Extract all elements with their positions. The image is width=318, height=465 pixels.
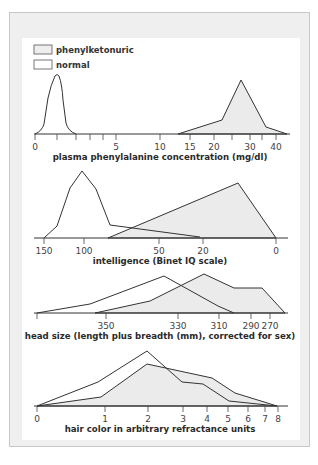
x-tick-label: 20 bbox=[197, 246, 209, 256]
x-tick-label: 50 bbox=[153, 246, 165, 256]
chart-phenylalanine: 051015203040 plasma phenylalanine concen… bbox=[32, 75, 290, 163]
x-axis-ticks: 350330310290270 bbox=[37, 313, 279, 331]
x-tick-label: 15 bbox=[184, 142, 195, 152]
x-tick-label: 20 bbox=[208, 142, 220, 152]
x-tick-label: 30 bbox=[244, 142, 256, 152]
x-tick-label: 4 bbox=[204, 414, 210, 424]
pku-distribution bbox=[178, 80, 287, 134]
chart-head-size: 350330310290270 head size (length plus b… bbox=[25, 274, 296, 341]
x-tick-label: 290 bbox=[242, 321, 259, 331]
legend: phenylketonuric normal bbox=[34, 45, 134, 70]
x-tick-label: 0 bbox=[273, 246, 279, 256]
x-tick-label: 10 bbox=[154, 142, 166, 152]
x-tick-label: 1 bbox=[102, 414, 108, 424]
x-tick-label: 330 bbox=[169, 321, 186, 331]
x-axis-title: head size (length plus breadth (mm), cor… bbox=[25, 331, 296, 341]
x-tick-label: 6 bbox=[245, 414, 251, 424]
x-tick-label: 7 bbox=[262, 414, 268, 424]
figure-svg: phenylketonuric normal 051015203040 plas… bbox=[0, 0, 318, 465]
x-tick-label: 2 bbox=[145, 414, 151, 424]
legend-swatch-pku bbox=[34, 45, 52, 54]
x-axis-title: plasma phenylalanine concentration (mg/d… bbox=[53, 152, 268, 162]
chart-hair-color: 012345678 hair color in arbitrary refrac… bbox=[34, 351, 288, 434]
x-tick-label: 310 bbox=[210, 321, 227, 331]
x-tick-label: 0 bbox=[34, 414, 40, 424]
x-axis-ticks: 15010050200 bbox=[35, 238, 279, 256]
pku-distribution bbox=[108, 183, 276, 238]
normal-distribution bbox=[35, 75, 76, 135]
x-tick-label: 100 bbox=[75, 246, 92, 256]
x-tick-label: 3 bbox=[180, 414, 186, 424]
x-axis-title: hair color in arbitrary refractance unit… bbox=[65, 424, 256, 434]
x-tick-label: 5 bbox=[113, 142, 119, 152]
x-axis-ticks: 012345678 bbox=[34, 406, 281, 424]
x-tick-label: 5 bbox=[225, 414, 231, 424]
x-axis-title: intelligence (Binet IQ scale) bbox=[93, 256, 228, 266]
chart-intelligence: 15010050200 intelligence (Binet IQ scale… bbox=[34, 171, 288, 266]
x-tick-label: 150 bbox=[35, 246, 52, 256]
x-tick-label: 40 bbox=[270, 142, 282, 152]
x-tick-label: 8 bbox=[275, 414, 281, 424]
legend-label-pku: phenylketonuric bbox=[56, 45, 134, 55]
legend-label-normal: normal bbox=[56, 60, 90, 70]
x-tick-label: 0 bbox=[32, 142, 38, 152]
pku-distribution bbox=[95, 274, 285, 313]
x-axis-ticks: 051015203040 bbox=[32, 134, 282, 152]
pku-distribution bbox=[37, 364, 277, 406]
x-tick-label: 270 bbox=[261, 321, 278, 331]
x-tick-label: 350 bbox=[97, 321, 114, 331]
legend-swatch-normal bbox=[34, 60, 52, 69]
